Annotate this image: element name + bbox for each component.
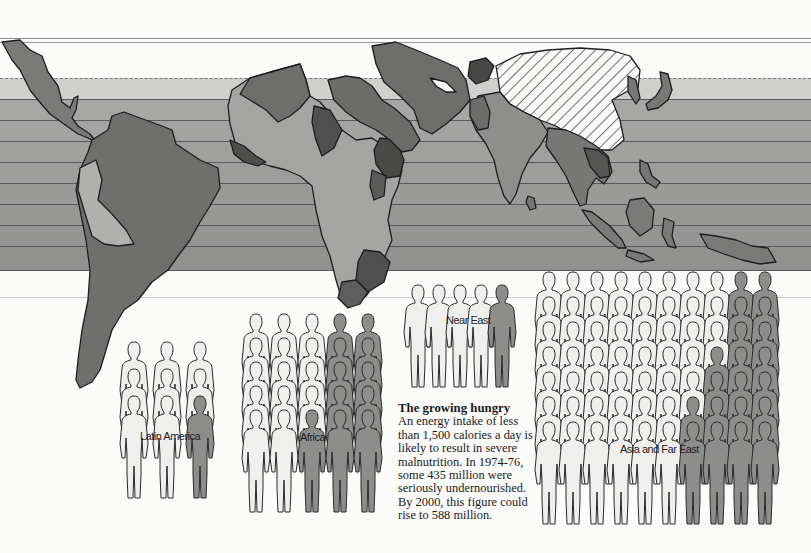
sri-lanka [526, 196, 536, 210]
region-label-africa: Africa [300, 431, 325, 443]
philippines [640, 160, 660, 188]
region-label-asia-far-east: Asia and Far East [620, 443, 699, 455]
afghanistan-region [468, 58, 494, 84]
japan [646, 72, 672, 110]
figure-person [118, 394, 150, 506]
figure-undernourished [749, 420, 781, 532]
figure-person [151, 394, 183, 506]
figure-undernourished [352, 408, 384, 520]
region-label-latin-america: Latin America [140, 430, 200, 442]
mexico-region [2, 40, 96, 142]
java [626, 250, 654, 262]
caption-block: The growing hungry An energy intake of l… [398, 402, 538, 523]
sulawesi [662, 218, 676, 248]
borneo [626, 198, 654, 236]
caption-title: The growing hungry [398, 402, 538, 415]
new-guinea [700, 234, 776, 264]
figure-undernourished [486, 283, 518, 395]
region-label-near-east: Near East [446, 314, 490, 326]
figure-undernourished [184, 394, 216, 506]
caption-body: An energy intake of less than 1,500 calo… [398, 414, 533, 522]
east-africa-region [370, 170, 386, 200]
sumatra [582, 210, 626, 248]
